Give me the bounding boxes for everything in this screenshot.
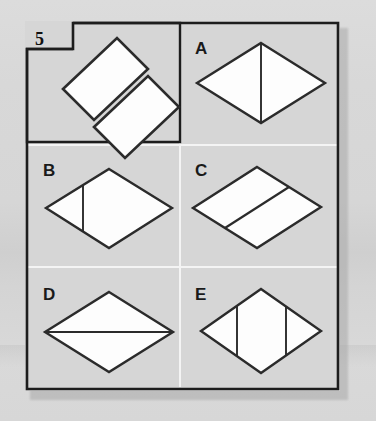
option-label-c[interactable]: C bbox=[195, 162, 207, 179]
question-number: 5 bbox=[35, 30, 44, 48]
option-label-b[interactable]: B bbox=[43, 162, 55, 179]
option-label-d[interactable]: D bbox=[43, 286, 55, 303]
option-label-a[interactable]: A bbox=[195, 40, 207, 57]
option-label-e[interactable]: E bbox=[195, 286, 206, 303]
puzzle-card: 5 A B C D E bbox=[25, 21, 340, 391]
puzzle-diagram bbox=[25, 21, 340, 391]
